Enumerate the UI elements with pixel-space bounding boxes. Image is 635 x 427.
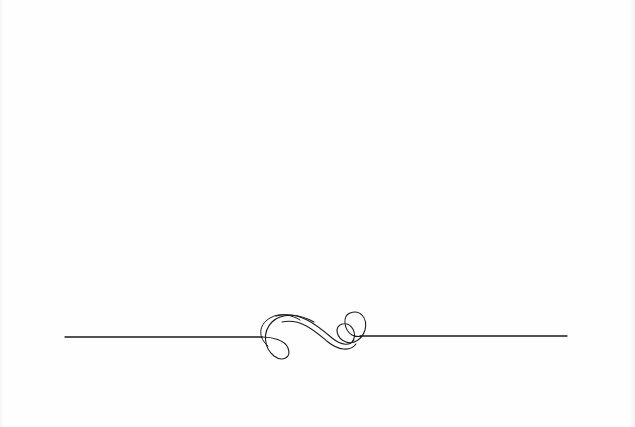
document-page: ornamental flourish divider — [0, 0, 635, 427]
flourish-divider-icon — [0, 0, 635, 427]
flourish-right-loop — [337, 312, 366, 343]
